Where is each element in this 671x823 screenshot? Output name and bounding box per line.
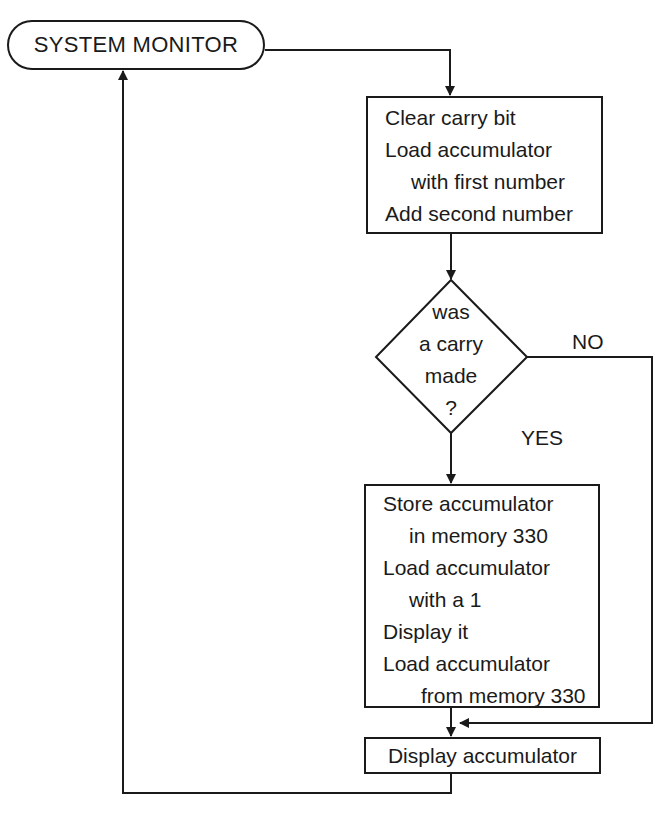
decision-line-4: ? [400, 392, 502, 424]
process2-line-4: with a 1 [383, 584, 598, 616]
process-box-carry-handling: Store accumulator in memory 330 Load acc… [364, 484, 600, 708]
terminator-label: SYSTEM MONITOR [34, 32, 238, 58]
process1-line-2: Load accumulator [385, 134, 601, 166]
terminator-system-monitor: SYSTEM MONITOR [7, 20, 265, 70]
edge-start-to-process1 [265, 50, 450, 95]
process-box-display-accumulator: Display accumulator [364, 737, 601, 774]
decision-line-2: a carry [400, 328, 502, 360]
process1-line-1: Clear carry bit [385, 102, 601, 134]
decision-text: was a carry made ? [400, 296, 502, 424]
process2-line-5: Display it [383, 616, 598, 648]
process1-line-3: with first number [385, 166, 601, 198]
process2-line-7: from memory 330 [383, 680, 598, 712]
process1-line-4: Add second number [385, 198, 601, 230]
process3-label: Display accumulator [388, 740, 577, 772]
decision-line-3: made [400, 360, 502, 392]
process2-line-3: Load accumulator [383, 552, 598, 584]
process2-line-1: Store accumulator [383, 488, 598, 520]
edge-label-no: NO [572, 330, 604, 354]
process2-line-6: Load accumulator [383, 648, 598, 680]
process-box-add-numbers: Clear carry bit Load accumulator with fi… [366, 96, 603, 234]
decision-line-1: was [400, 296, 502, 328]
process2-line-2: in memory 330 [383, 520, 598, 552]
edge-label-yes: YES [521, 426, 563, 450]
